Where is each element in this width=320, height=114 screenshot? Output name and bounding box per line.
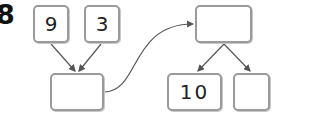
arrow-a-to-sum: [51, 44, 75, 71]
part-box-b[interactable]: [233, 73, 270, 111]
part-box-a: 10: [167, 73, 222, 111]
arrow-result-to-part-b: [224, 44, 250, 71]
sum-box[interactable]: [50, 73, 104, 111]
result-box[interactable]: [195, 5, 252, 43]
input-box-b: 3: [84, 5, 120, 43]
arrow-result-to-part-a: [198, 44, 224, 71]
input-box-a: 9: [33, 5, 69, 43]
arrow-b-to-sum: [79, 44, 101, 71]
